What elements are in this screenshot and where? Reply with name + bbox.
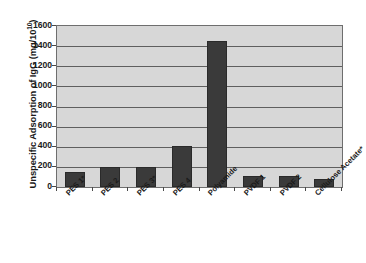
y-axis-tick-label: 1000 bbox=[24, 81, 52, 90]
y-axis-tick-label: 1400 bbox=[24, 41, 52, 50]
bar bbox=[207, 41, 227, 187]
x-axis-category-labels: PES 1*PES 2PES 3*PES 4PolyamidePVDF 1PVD… bbox=[56, 191, 347, 263]
y-axis-tick-mark bbox=[52, 85, 56, 86]
y-axis-tick-mark bbox=[52, 25, 56, 26]
bars-layer bbox=[57, 26, 342, 187]
y-axis-tick-label: 600 bbox=[24, 121, 52, 130]
y-axis-tick-mark bbox=[52, 126, 56, 127]
y-axis-tick-mark bbox=[52, 106, 56, 107]
y-axis-tick-label: 1200 bbox=[24, 61, 52, 70]
y-axis-tick-mark bbox=[52, 146, 56, 147]
y-axis-tick-label: 1600 bbox=[24, 21, 52, 30]
y-axis-tick-label: 200 bbox=[24, 161, 52, 170]
y-axis-tick-mark bbox=[52, 65, 56, 66]
y-axis-tick-label: 800 bbox=[24, 101, 52, 110]
plot-area bbox=[56, 25, 343, 188]
y-axis-tick-mark bbox=[52, 166, 56, 167]
y-axis-tick-mark bbox=[52, 45, 56, 46]
y-axis-tick-mark bbox=[52, 186, 56, 187]
y-axis-tick-label: 400 bbox=[24, 141, 52, 150]
y-axis-tick-label: 0 bbox=[24, 182, 52, 191]
y-axis-tick-labels: 16001400120010008006004002000 bbox=[24, 18, 52, 193]
